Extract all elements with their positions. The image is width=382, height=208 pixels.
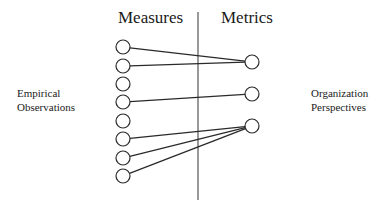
connection-m2-k1: [130, 62, 245, 66]
connections: [130, 48, 246, 174]
measure-nodes: [116, 40, 130, 183]
metric-node-k3: [245, 119, 259, 133]
connection-m8-k3: [130, 129, 246, 174]
measure-node-m2: [116, 59, 130, 73]
metric-node-k2: [245, 87, 259, 101]
connection-m4-k2: [130, 94, 245, 101]
measures-metrics-diagram: [0, 0, 382, 208]
metric-nodes: [245, 55, 259, 133]
measure-node-m4: [116, 95, 130, 109]
measure-node-m5: [116, 114, 130, 128]
measure-node-m8: [116, 169, 130, 183]
metric-node-k1: [245, 55, 259, 69]
measure-node-m1: [116, 40, 130, 54]
connection-m1-k1: [130, 48, 245, 61]
measure-node-m3: [116, 77, 130, 91]
measure-node-m6: [116, 132, 130, 146]
measure-node-m7: [116, 151, 130, 165]
